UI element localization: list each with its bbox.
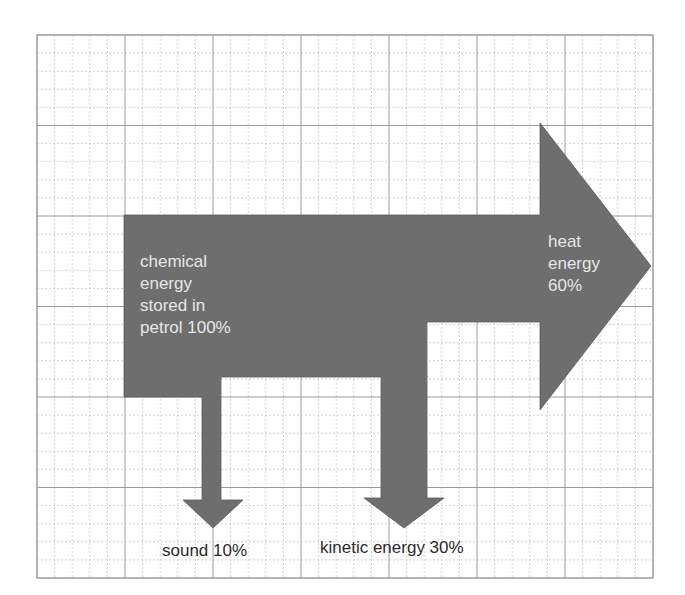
chemical-energy-label: chemical energy stored in petrol 100% [140, 251, 231, 339]
kinetic-energy-arrow [364, 376, 444, 528]
sound-energy-arrow [183, 396, 243, 528]
kinetic-energy-label: kinetic energy 30% [320, 537, 464, 559]
sound-energy-label: sound 10% [162, 540, 247, 562]
energy-sankey-diagram [0, 0, 685, 595]
heat-energy-label: heat energy 60% [548, 231, 600, 297]
